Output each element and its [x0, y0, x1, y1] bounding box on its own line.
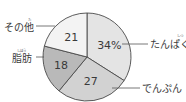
slice-value-label: 21: [64, 31, 78, 44]
slice-value-label: 34%: [97, 39, 121, 52]
slice-category-label: でんぷん: [142, 83, 182, 94]
furigana: しぼう: [17, 48, 26, 53]
slice-category-label: 脂肪: [12, 52, 32, 64]
furigana: しつ: [177, 33, 184, 38]
slice-category-label: たんぱく質: [150, 38, 186, 50]
slice-category-label: その他: [4, 21, 34, 33]
slice-value-label: 27: [84, 75, 98, 88]
pie-chart: 34%たんぱく質しつ27でんぷん18脂肪しぼう21その他た: [0, 0, 186, 102]
slice-value-label: 18: [54, 59, 68, 72]
